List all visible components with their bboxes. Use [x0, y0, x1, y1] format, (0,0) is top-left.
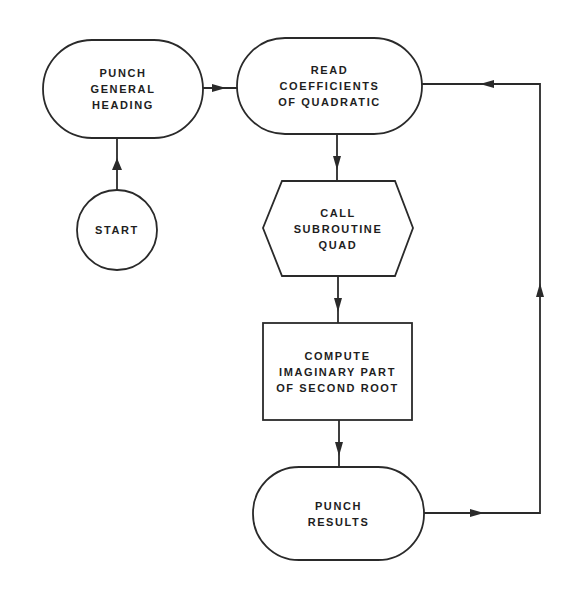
node-label-line: CALL	[320, 205, 356, 221]
arrow-icon	[470, 509, 484, 517]
punch-heading-node: PUNCH GENERAL HEADING	[43, 40, 203, 138]
arrow-icon	[480, 80, 494, 88]
arrow-icon	[334, 298, 342, 312]
call-quad-node: CALL SUBROUTINE QUAD	[263, 181, 413, 276]
node-label-line: OF QUADRATIC	[278, 94, 381, 110]
edge-results-loop-to-read	[422, 84, 540, 513]
node-label-line: COEFFICIENTS	[280, 78, 380, 94]
node-label-line: RESULTS	[308, 514, 370, 530]
node-label-line: COMPUTE	[304, 348, 370, 364]
arrow-icon	[333, 156, 341, 170]
node-label-line: PUNCH	[99, 65, 146, 81]
read-coefficients-node: READ COEFFICIENTS OF QUADRATIC	[237, 38, 422, 134]
node-label-line: OF SECOND ROOT	[276, 380, 399, 396]
compute-imaginary-node: COMPUTE IMAGINARY PART OF SECOND ROOT	[263, 323, 412, 420]
node-label-line: QUAD	[319, 237, 358, 253]
node-label-line: GENERAL	[91, 81, 156, 97]
node-label-line: SUBROUTINE	[294, 221, 383, 237]
arrow-icon	[536, 283, 544, 297]
start-node: START	[77, 190, 157, 270]
node-label-line: PUNCH	[315, 498, 362, 514]
node-label-line: HEADING	[92, 97, 154, 113]
node-label-line: IMAGINARY PART	[279, 364, 396, 380]
node-label-line: READ	[311, 62, 349, 78]
arrow-icon	[335, 442, 343, 456]
node-label-line: START	[95, 222, 139, 238]
arrow-icon	[112, 158, 122, 170]
punch-results-node: PUNCH RESULTS	[253, 467, 424, 560]
arrow-icon	[212, 84, 226, 92]
